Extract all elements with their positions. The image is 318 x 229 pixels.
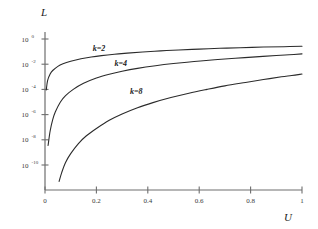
- x-tick-label: 0.6: [195, 197, 204, 205]
- x-tick-label: 0.4: [143, 197, 152, 205]
- series-label-k2: k=2: [93, 44, 106, 53]
- y-tick-mantissa: 10: [22, 136, 30, 144]
- y-tick-exponent: -6: [32, 109, 37, 114]
- chart-figure: 10010-210-410-610-810-10 00.20.40.60.81 …: [0, 0, 318, 229]
- y-tick-mantissa: 10: [22, 111, 30, 119]
- y-tick-mantissa: 10: [22, 162, 30, 170]
- y-tick-mantissa: 10: [22, 36, 30, 44]
- y-tick-exponent: -2: [32, 59, 37, 64]
- y-tick-mantissa: 10: [22, 86, 30, 94]
- series-label-k4: k=4: [115, 59, 128, 68]
- y-tick-exponent: -4: [32, 84, 37, 89]
- x-tick-label: 0.8: [246, 197, 255, 205]
- y-tick-exponent: -8: [32, 134, 37, 139]
- y-tick-mantissa: 10: [22, 61, 30, 69]
- x-axis-title: U: [284, 211, 293, 223]
- y-axis-title: L: [40, 6, 47, 18]
- series-label-k8: k=8: [130, 87, 143, 96]
- x-tick-label: 0: [43, 197, 47, 205]
- y-tick-exponent: -10: [32, 160, 39, 165]
- x-tick-label: 0.2: [92, 197, 101, 205]
- x-tick-label: 1: [300, 197, 304, 205]
- chart-plot-area: 10010-210-410-610-810-10 00.20.40.60.81 …: [0, 0, 318, 229]
